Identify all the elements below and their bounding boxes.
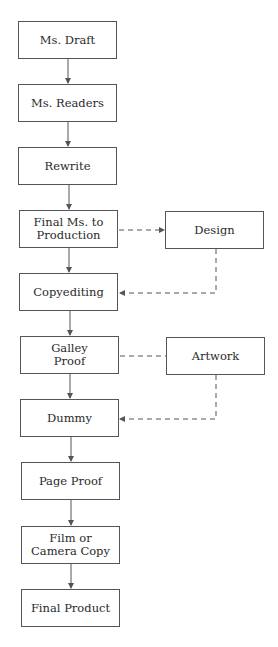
node-film-or-camera-copy: Film or Camera Copy [21, 526, 120, 564]
node-rewrite: Rewrite [18, 147, 117, 185]
node-artwork: Artwork [166, 337, 265, 375]
node-design: Design [165, 211, 264, 249]
node-page-proof: Page Proof [21, 462, 120, 500]
node-galley-proof: Galley Proof [20, 336, 119, 374]
node-final-ms-to-production: Final Ms. to Production [19, 210, 118, 248]
node-copyediting: Copyediting [19, 273, 118, 311]
edge-artwork-dummy [120, 375, 216, 419]
edge-design-copyediting [120, 249, 216, 293]
node-ms-draft: Ms. Draft [18, 21, 117, 59]
node-final-product: Final Product [21, 589, 120, 627]
node-dummy: Dummy [20, 399, 119, 437]
node-ms-readers: Ms. Readers [18, 84, 117, 122]
